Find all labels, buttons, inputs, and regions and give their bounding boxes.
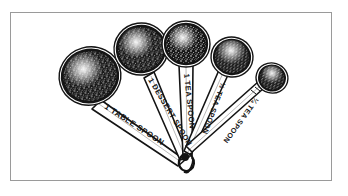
label-tablespoon: 1 TABLE SPOON [103,102,166,147]
illustration-page: 1 TABLE SPOON 1 DESSERT SPOON 1 TEA SPOO… [0,0,348,196]
measuring-spoons-illustration: 1 TABLE SPOON 1 DESSERT SPOON 1 TEA SPOO… [0,0,348,196]
bowl-teaspoon [162,21,210,67]
bowl-half-teaspoon [208,34,255,79]
